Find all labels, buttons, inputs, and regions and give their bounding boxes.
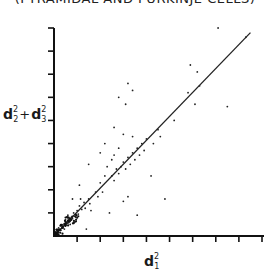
data-point <box>136 214 138 216</box>
data-point <box>69 224 71 226</box>
data-point <box>132 152 134 154</box>
data-point <box>245 36 247 38</box>
data-point <box>199 85 201 87</box>
data-point-cluster <box>75 214 77 216</box>
data-point-cluster <box>57 232 59 234</box>
data-point <box>125 103 127 105</box>
data-point-cluster <box>59 225 61 227</box>
identity-line <box>54 33 250 236</box>
data-point-cluster <box>68 220 70 222</box>
data-point <box>77 213 79 215</box>
data-point-cluster <box>57 228 59 230</box>
data-point-cluster <box>75 218 77 220</box>
data-point-cluster <box>76 217 78 219</box>
data-point <box>136 147 138 149</box>
data-point-cluster <box>54 233 56 235</box>
data-point <box>139 154 141 156</box>
data-point <box>159 136 161 138</box>
data-point <box>104 143 106 145</box>
data-point <box>134 159 136 161</box>
data-point <box>88 198 90 200</box>
data-point-cluster <box>61 233 63 235</box>
data-point <box>127 83 129 85</box>
data-point <box>83 202 85 204</box>
data-point <box>226 106 228 108</box>
data-point <box>85 228 87 230</box>
data-point <box>187 92 189 94</box>
data-point <box>72 198 74 200</box>
data-point <box>164 198 166 200</box>
data-point <box>73 212 75 214</box>
data-point <box>127 196 129 198</box>
data-point <box>109 212 111 214</box>
data-point <box>111 159 113 161</box>
data-point <box>99 152 101 154</box>
data-point <box>132 90 134 92</box>
data-point-cluster <box>59 232 61 234</box>
data-point-cluster <box>64 217 66 219</box>
data-point <box>116 168 118 170</box>
data-point-cluster <box>71 216 73 218</box>
data-point-cluster <box>67 224 69 226</box>
data-point <box>64 228 66 230</box>
data-point <box>152 143 154 145</box>
data-point <box>81 209 83 211</box>
data-point <box>122 133 124 135</box>
data-point <box>104 175 106 177</box>
data-point <box>111 175 113 177</box>
data-point <box>118 147 120 149</box>
data-point <box>89 203 91 205</box>
data-point-cluster <box>67 216 69 218</box>
data-point-cluster <box>73 220 75 222</box>
scatter-plot <box>0 0 270 275</box>
data-point-cluster <box>63 223 65 225</box>
data-point-cluster <box>54 231 56 233</box>
data-point-cluster <box>73 222 75 224</box>
data-point <box>113 180 115 182</box>
data-point <box>150 175 152 177</box>
data-point <box>79 184 81 186</box>
data-point <box>79 205 81 207</box>
data-point <box>132 136 134 138</box>
data-point <box>67 214 69 216</box>
data-point <box>95 191 97 193</box>
data-point <box>97 196 99 198</box>
data-point <box>196 71 198 73</box>
data-point <box>173 120 175 122</box>
data-point <box>99 182 101 184</box>
data-point <box>118 96 120 98</box>
data-point <box>76 210 78 212</box>
data-point <box>127 157 129 159</box>
data-point <box>80 198 82 200</box>
data-point <box>118 173 120 175</box>
data-point <box>102 191 104 193</box>
data-point <box>125 168 127 170</box>
data-point <box>157 129 159 131</box>
data-point-cluster <box>70 219 72 221</box>
data-point <box>88 163 90 165</box>
data-point <box>84 207 86 209</box>
data-point <box>113 126 115 128</box>
data-point <box>194 103 196 105</box>
data-point <box>90 210 92 212</box>
data-point <box>106 166 108 168</box>
data-point <box>122 200 124 202</box>
data-point <box>120 166 122 168</box>
data-point <box>143 150 145 152</box>
data-point <box>129 163 131 165</box>
data-point-cluster <box>61 227 63 229</box>
data-point <box>146 138 148 140</box>
data-point <box>217 27 219 29</box>
data-point-cluster <box>64 220 66 222</box>
data-point <box>113 154 115 156</box>
data-point <box>141 143 143 145</box>
data-point <box>189 64 191 66</box>
data-point <box>122 161 124 163</box>
